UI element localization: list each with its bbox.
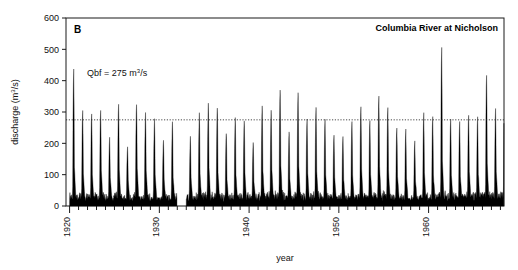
y-axis-ticks: 0100200300400500600 [44, 13, 66, 211]
y-tick-label: 500 [44, 45, 59, 55]
x-axis-title: year [276, 253, 294, 263]
y-tick-label: 400 [44, 76, 59, 86]
y-tick-label: 600 [44, 13, 59, 23]
panel-label: B [74, 24, 81, 35]
y-axis-title-text: discharge (m [10, 93, 20, 145]
x-axis-ticks: 19201930194019501960 [62, 206, 501, 237]
y-tick-label: 100 [44, 170, 59, 180]
hydrograph-svg: 0100200300400500600 19201930194019501960… [0, 0, 518, 270]
x-tick-label: 1920 [62, 217, 72, 237]
y-axis-title-tail: /s) [10, 79, 20, 89]
y-tick-label: 200 [44, 139, 59, 149]
discharge-hydrograph-figure: 0100200300400500600 19201930194019501960… [0, 0, 518, 270]
plot-frame [66, 18, 504, 206]
y-tick-label: 300 [44, 107, 59, 117]
station-title: Columbia River at Nicholson [375, 23, 498, 33]
x-tick-label: 1940 [241, 217, 251, 237]
x-tick-label: 1930 [151, 217, 161, 237]
x-tick-label: 1960 [421, 217, 431, 237]
y-axis-title: discharge (m3/s) [10, 79, 21, 144]
bankfull-annotation-tail: /s [140, 68, 148, 78]
y-tick-label: 0 [54, 201, 59, 211]
bankfull-annotation: Qbf = 275 m3/s [87, 68, 148, 79]
bankfull-annotation-text: Qbf = 275 m [87, 68, 137, 78]
x-tick-label: 1950 [331, 217, 341, 237]
